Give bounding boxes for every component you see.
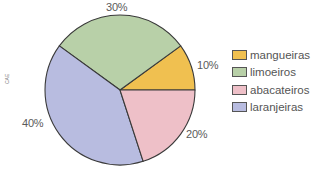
legend-label: abacateiros: [250, 84, 309, 96]
legend-item-mangueiras: mangueiras: [232, 46, 310, 64]
legend-label: limoeiros: [250, 66, 296, 78]
legend-swatch: [232, 67, 247, 77]
legend-label: laranjeiras: [250, 101, 303, 113]
legend-item-limoeiros: limoeiros: [232, 64, 310, 82]
image-credit: CAE: [4, 74, 10, 84]
legend-swatch: [232, 85, 247, 95]
pie-slices: [45, 15, 195, 165]
legend-swatch: [232, 102, 247, 112]
label-abacateiros: 20%: [186, 128, 207, 140]
label-limoeiros: 30%: [106, 1, 127, 13]
legend-item-abacateiros: abacateiros: [232, 81, 310, 99]
legend-label: mangueiras: [250, 49, 310, 61]
label-mangueiras: 10%: [197, 59, 218, 71]
legend: mangueiras limoeiros abacateiros laranje…: [232, 46, 310, 116]
legend-swatch: [232, 50, 247, 60]
label-laranjeiras: 40%: [22, 117, 43, 129]
legend-item-laranjeiras: laranjeiras: [232, 99, 310, 117]
